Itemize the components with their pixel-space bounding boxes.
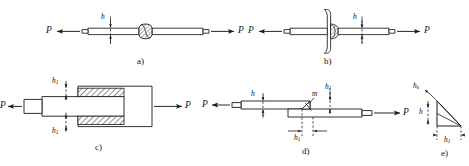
force-label-d-left: P [202, 100, 208, 110]
dimension-label-e-h: h [419, 108, 423, 116]
figure-canvas: P P h a) P P h b) P P h1 h1 c) P P h m h… [0, 0, 469, 166]
force-label-a-right: P [238, 26, 244, 36]
dimension-label-d-h: h [251, 90, 255, 98]
panel-caption-c: c) [95, 143, 102, 152]
dimension-label-e-h1: h1 [444, 136, 450, 145]
force-label-b-left: P [248, 26, 254, 36]
panel-caption-a: a) [137, 57, 144, 66]
panel-caption-b: b) [324, 57, 332, 66]
panel-caption-e: e) [441, 149, 448, 158]
dimension-label-b-h: h [353, 13, 357, 21]
dimension-label-d-h1-horizontal: h1 [294, 134, 300, 143]
panel-d-geometry [212, 88, 400, 136]
force-label-a-left: P [46, 26, 52, 36]
force-label-d-right: P [403, 108, 409, 118]
dimension-label-c-h1-top: h1 [52, 77, 58, 86]
force-label-b-right: P [424, 26, 430, 36]
welded-joints-figure [0, 0, 469, 166]
force-label-c-left: P [0, 101, 6, 111]
panel-c-geometry [8, 81, 182, 132]
panel-b-geometry [259, 10, 420, 54]
annotation-label-d-m: m [312, 90, 317, 98]
dimension-label-e-he: he [413, 82, 419, 91]
dimension-label-d-h1-vertical: h1 [325, 83, 331, 92]
dimension-label-c-h1-bottom: h1 [52, 127, 58, 136]
dimension-label-a-h: h [101, 13, 105, 21]
panel-e-geometry [425, 90, 465, 140]
panel-caption-d: d) [302, 147, 310, 156]
panel-a-geometry [57, 17, 234, 45]
force-label-c-right: P [185, 101, 191, 111]
